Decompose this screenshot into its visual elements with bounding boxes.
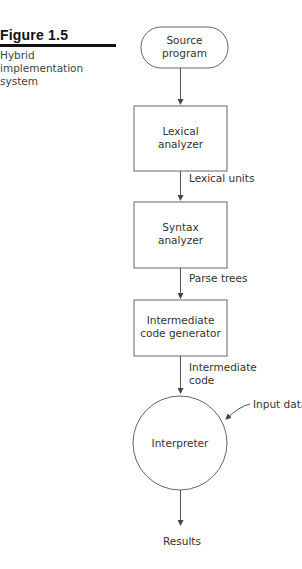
edge-label-lexical-units: Lexical units (189, 172, 254, 185)
edge-label-results: Results (163, 535, 201, 548)
source-program-label: Source program (141, 34, 228, 60)
lexical-line2: analyzer (134, 138, 227, 151)
edge-label-parse-trees: Parse trees (189, 272, 247, 285)
intermediate-code-generator-label: Intermediate code generator (130, 314, 231, 340)
arrow-input-data (226, 404, 250, 419)
intermediate-code-line2: code (189, 374, 257, 387)
interpreter-label: Interpreter (133, 437, 227, 450)
edge-label-input-data: Input data (253, 398, 302, 411)
lexical-line1: Lexical (134, 125, 227, 138)
intermediate-code-line1: Intermediate (189, 361, 257, 374)
syntax-line1: Syntax (134, 221, 227, 234)
source-line2: program (141, 47, 228, 60)
edge-label-intermediate-code: Intermediate code (189, 361, 257, 387)
intermediate-line1: Intermediate (130, 314, 231, 327)
source-line1: Source (141, 34, 228, 47)
syntax-analyzer-label: Syntax analyzer (134, 221, 227, 247)
lexical-analyzer-label: Lexical analyzer (134, 125, 227, 151)
intermediate-line2: code generator (130, 327, 231, 340)
flowchart-diagram (0, 0, 302, 569)
syntax-line2: analyzer (134, 234, 227, 247)
